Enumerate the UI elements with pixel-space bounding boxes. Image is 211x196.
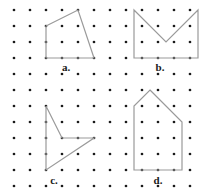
grid-dot: [93, 105, 96, 108]
grid-dot: [189, 153, 192, 156]
grid-dot: [13, 41, 16, 44]
grid-dot: [61, 89, 64, 92]
grid-dot: [125, 89, 128, 92]
grid-dot: [93, 73, 96, 76]
grid-dot: [45, 89, 48, 92]
grid-dot: [77, 121, 80, 124]
grid-dot: [125, 73, 128, 76]
grid-dot: [61, 105, 64, 108]
grid-dot: [77, 153, 80, 156]
figure-label-d: d.: [154, 175, 163, 186]
grid-dot: [77, 185, 80, 188]
grid-dot: [109, 153, 112, 156]
grid-dot: [93, 121, 96, 124]
grid-dot: [13, 169, 16, 172]
dot-grid: [13, 9, 192, 188]
grid-dot: [141, 105, 144, 108]
grid-dot: [173, 185, 176, 188]
grid-dot: [29, 105, 32, 108]
grid-dot: [125, 41, 128, 44]
grid-dot: [189, 9, 192, 12]
grid-dot: [141, 137, 144, 140]
grid-dot: [125, 25, 128, 28]
grid-dot: [77, 89, 80, 92]
grid-dot: [45, 9, 48, 12]
grid-dot: [13, 153, 16, 156]
grid-dot: [173, 153, 176, 156]
grid-dot: [189, 185, 192, 188]
grid-dot: [125, 137, 128, 140]
grid-dot: [173, 41, 176, 44]
grid-dot: [189, 25, 192, 28]
grid-dot: [109, 9, 112, 12]
grid-dot: [157, 25, 160, 28]
grid-dot: [157, 121, 160, 124]
grid-dot: [61, 41, 64, 44]
grid-dot: [13, 25, 16, 28]
grid-dot: [189, 137, 192, 140]
grid-dot: [13, 9, 16, 12]
grid-dot: [125, 153, 128, 156]
grid-dot: [157, 105, 160, 108]
grid-dot: [109, 57, 112, 60]
grid-dot: [141, 89, 144, 92]
grid-dot: [109, 185, 112, 188]
grid-dot: [29, 121, 32, 124]
grid-dot: [93, 153, 96, 156]
grid-dot: [157, 41, 160, 44]
grid-dot: [93, 9, 96, 12]
grid-dot: [125, 121, 128, 124]
grid-dot: [29, 41, 32, 44]
grid-dot: [189, 169, 192, 172]
grid-dot: [141, 153, 144, 156]
grid-dot: [29, 153, 32, 156]
grid-dot: [93, 169, 96, 172]
figure-polygon-d: [134, 90, 182, 170]
geoboard-canvas: [0, 0, 211, 196]
grid-dot: [29, 89, 32, 92]
grid-dot: [77, 105, 80, 108]
grid-dot: [141, 9, 144, 12]
grid-dot: [157, 153, 160, 156]
grid-dot: [125, 105, 128, 108]
grid-dot: [173, 137, 176, 140]
grid-dot: [173, 9, 176, 12]
grid-dot: [29, 57, 32, 60]
grid-dot: [189, 41, 192, 44]
grid-dot: [173, 105, 176, 108]
grid-dot: [173, 25, 176, 28]
figure-label-b: b.: [156, 62, 165, 73]
grid-dot: [189, 121, 192, 124]
grid-dot: [141, 121, 144, 124]
grid-dot: [61, 73, 64, 76]
grid-dot: [141, 25, 144, 28]
grid-dot: [61, 25, 64, 28]
grid-dot: [61, 9, 64, 12]
grid-dot: [93, 89, 96, 92]
grid-dot: [173, 121, 176, 124]
figure-polygon-a: [46, 10, 94, 58]
grid-dot: [109, 41, 112, 44]
grid-dot: [109, 169, 112, 172]
grid-dot: [77, 25, 80, 28]
grid-dot: [29, 9, 32, 12]
grid-dot: [125, 57, 128, 60]
grid-dot: [29, 169, 32, 172]
grid-dot: [157, 73, 160, 76]
grid-dot: [45, 73, 48, 76]
grid-dot: [109, 121, 112, 124]
grid-dot: [157, 137, 160, 140]
grid-dot: [157, 89, 160, 92]
grid-dot: [93, 185, 96, 188]
grid-dot: [173, 73, 176, 76]
grid-dot: [109, 105, 112, 108]
figure-polygon-c: [46, 106, 94, 170]
grid-dot: [13, 137, 16, 140]
grid-dot: [61, 121, 64, 124]
grid-dot: [125, 169, 128, 172]
figure-polygon-b: [134, 10, 198, 58]
grid-dot: [141, 41, 144, 44]
grid-dot: [77, 169, 80, 172]
grid-dot: [29, 185, 32, 188]
grid-dot: [13, 185, 16, 188]
